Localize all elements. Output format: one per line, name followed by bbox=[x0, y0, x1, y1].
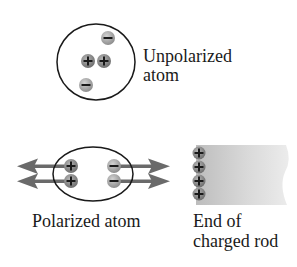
negative-charge-icon bbox=[101, 31, 115, 45]
atom-boundary bbox=[57, 24, 135, 100]
negative-charge-icon bbox=[79, 78, 93, 92]
atom-boundary bbox=[53, 147, 133, 201]
positive-charge-icon bbox=[81, 54, 95, 68]
positive-charge-icon bbox=[193, 147, 206, 160]
unpolarized-atom-label-line1: Unpolarized bbox=[143, 47, 232, 66]
unpolarized-atom-label-line2: atom bbox=[143, 66, 179, 85]
positive-charge-icon bbox=[97, 54, 111, 68]
negative-charge-icon bbox=[107, 174, 121, 188]
positive-charge-icon bbox=[193, 161, 206, 174]
positive-charge-icon bbox=[193, 188, 206, 201]
diagram: Unpolarized atom Polarized atom End of c… bbox=[0, 0, 297, 267]
unpolarized-atom bbox=[57, 24, 135, 100]
rod-label-line2: charged rod bbox=[193, 232, 278, 251]
rod-label-line1: End of bbox=[193, 212, 242, 231]
polarized-atom bbox=[53, 147, 133, 201]
charged-rod bbox=[193, 145, 289, 205]
positive-charge-icon bbox=[64, 159, 78, 173]
negative-charge-icon bbox=[107, 159, 121, 173]
positive-charge-icon bbox=[64, 174, 78, 188]
rod-body bbox=[196, 145, 289, 205]
force-arrows bbox=[17, 159, 170, 190]
positive-charge-icon bbox=[193, 175, 206, 188]
polarized-atom-label: Polarized atom bbox=[32, 212, 140, 231]
